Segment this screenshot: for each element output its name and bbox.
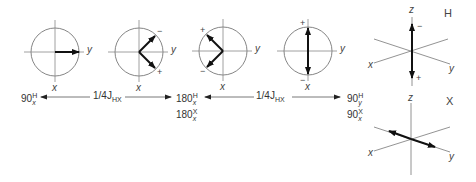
- x-axis-label: x: [368, 148, 373, 158]
- x-axis-label: x: [368, 60, 373, 70]
- y-axis-label: y: [449, 64, 454, 74]
- x-axis-label: x: [136, 83, 141, 93]
- y-axis-label: y: [340, 44, 345, 54]
- x-axis-label: x: [52, 83, 57, 93]
- spin-label-H: H: [444, 8, 452, 19]
- plus-sign: +: [200, 26, 205, 35]
- minus-sign: −: [157, 27, 162, 36]
- plus-sign: +: [157, 68, 162, 77]
- pulse-90x-H: 90Hx: [21, 92, 37, 106]
- pulse-180x-H: 180Hx: [176, 92, 198, 106]
- pulse-90y-H: 90Hy: [347, 92, 363, 106]
- delay-quarter-J-1: 1/4JHX: [93, 91, 122, 103]
- pulse-sequence-diagram: [0, 0, 476, 182]
- minus-sign: −: [417, 22, 422, 31]
- frame-3d-X: [374, 103, 450, 175]
- minus-sign: −: [300, 76, 305, 85]
- vector-circle-4: [277, 19, 337, 81]
- z-axis-label: z: [408, 93, 413, 103]
- pulse-90x-X: 90Xx: [347, 108, 363, 122]
- vector-circle-1: [24, 20, 84, 82]
- x-axis-label: x: [220, 82, 225, 92]
- plus-sign: +: [416, 74, 421, 83]
- z-axis-label: z: [409, 5, 414, 15]
- spin-label-X: X: [446, 96, 453, 107]
- minus-sign: −: [200, 67, 205, 76]
- y-axis-label: y: [255, 44, 260, 54]
- y-axis-label: y: [449, 152, 454, 162]
- x-axis-label: x: [305, 82, 310, 92]
- pulse-180x-X: 180Xx: [176, 108, 197, 122]
- y-axis-label: y: [171, 45, 176, 55]
- plus-sign: +: [300, 19, 305, 28]
- delay-quarter-J-2: 1/4JHX: [256, 91, 285, 103]
- frame-3d-H: [374, 17, 450, 86]
- y-axis-label: y: [87, 45, 92, 55]
